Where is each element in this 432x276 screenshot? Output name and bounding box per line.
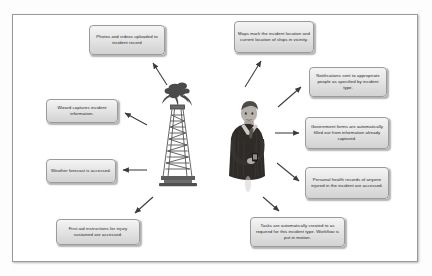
node-wizard-label: Wizard captures incident information. [50,105,114,117]
arrow-to-health [277,163,299,181]
node-firstaid[interactable]: First aid instructions for injury sustai… [56,219,140,245]
node-weather[interactable]: Weather forecast is accessed. [46,159,116,183]
arrow-to-firstaid [135,197,153,213]
node-notifications-label: Notifications sent to appropriate people… [313,73,383,92]
businessman-with-device-image [222,99,272,195]
node-photos[interactable]: Photos and videos uploaded to incident r… [89,25,165,55]
node-weather-label: Weather forecast is accessed. [51,168,111,174]
node-wizard[interactable]: Wizard captures incident information. [46,99,118,123]
node-tasks[interactable]: Tasks are automatically created to as re… [250,217,345,247]
node-forms[interactable]: Government forms are automatically fille… [305,117,389,149]
arrow-to-maps [245,61,261,87]
node-health[interactable]: Personal health records of anyone injure… [305,167,389,199]
node-health-label: Personal health records of anyone injure… [309,177,385,189]
node-photos-label: Photos and videos uploaded to incident r… [93,34,161,46]
node-maps[interactable]: Maps mark the incident location and curr… [234,21,314,53]
node-forms-label: Government forms are automatically fille… [309,124,385,143]
diagram-frame: Photos and videos uploaded to incident r… [12,14,418,262]
arrow-to-wizard [125,113,147,125]
node-notifications[interactable]: Notifications sent to appropriate people… [309,67,387,97]
arrow-to-tasks [263,197,279,211]
slide-canvas: Photos and videos uploaded to incident r… [0,0,432,276]
node-maps-label: Maps mark the incident location and curr… [238,31,310,43]
node-tasks-label: Tasks are automatically created to as re… [254,223,341,242]
node-firstaid-label: First aid instructions for injury sustai… [60,226,136,238]
oil-rig-derrick-image [155,77,201,193]
arrow-to-notifications [278,87,301,107]
